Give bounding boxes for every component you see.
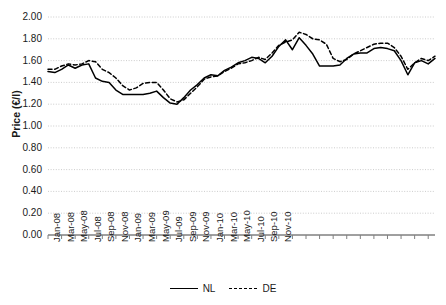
x-tick-label: May-10	[242, 210, 252, 242]
x-tick-label: Nov-09	[201, 211, 211, 242]
legend-item-de: DE	[229, 283, 276, 294]
x-tick-label: Jul-09	[174, 216, 184, 242]
price-line-chart: Price (€/l) 0.000.200.400.600.801.001.20…	[0, 0, 446, 305]
x-tick-label: Mar-08	[66, 212, 76, 242]
x-tick-label: Nov-08	[120, 211, 130, 242]
x-tick-label: Nov-10	[283, 211, 293, 242]
legend-label-de: DE	[262, 283, 276, 294]
legend-label-nl: NL	[203, 283, 216, 294]
x-tick-label: Jul-08	[93, 216, 103, 242]
x-tick-label: Jan-10	[215, 213, 225, 242]
x-tick-label: Jul-10	[256, 216, 266, 242]
y-tick-label: 1.00	[6, 121, 42, 131]
y-tick-label: 2.00	[6, 12, 42, 22]
series-line-de	[48, 32, 435, 102]
y-tick-label: 0.80	[6, 143, 42, 153]
legend-item-nl: NL	[170, 283, 216, 294]
y-tick-label: 0.60	[6, 165, 42, 175]
y-tick-label: 1.80	[6, 34, 42, 44]
plot-area	[0, 0, 446, 305]
x-tick-label: May-08	[79, 210, 89, 242]
x-tick-label: Jan-08	[52, 213, 62, 242]
y-tick-label: 0.00	[6, 230, 42, 240]
x-tick-label: Sep-09	[188, 211, 198, 242]
chart-legend: NL DE	[0, 283, 446, 294]
x-tick-label: Mar-10	[229, 212, 239, 242]
legend-line-solid-icon	[170, 288, 198, 289]
y-tick-label: 0.40	[6, 186, 42, 196]
x-tick-label: Jan-09	[133, 213, 143, 242]
x-tick-label: Sep-10	[269, 211, 279, 242]
y-tick-label: 1.40	[6, 77, 42, 87]
y-tick-label: 1.20	[6, 99, 42, 109]
y-tick-label: 0.20	[6, 208, 42, 218]
x-tick-label: May-09	[161, 210, 171, 242]
y-tick-label: 1.60	[6, 56, 42, 66]
legend-line-dashed-icon	[229, 288, 257, 289]
x-tick-label: Mar-09	[147, 212, 157, 242]
x-tick-label: Sep-08	[106, 211, 116, 242]
